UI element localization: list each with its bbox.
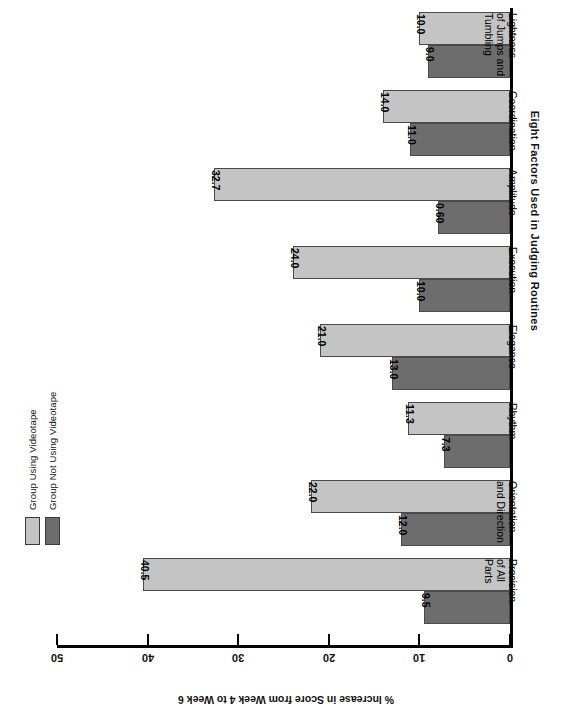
- legend-label-using-videotape: Group Using Videotape: [27, 409, 38, 510]
- bar-using-videotape: [214, 168, 510, 201]
- bar-value-label: 24.0: [289, 248, 301, 268]
- bar-value-label: 10.0: [415, 281, 427, 301]
- value-axis-tick-label: 10: [404, 652, 434, 664]
- bar-value-label: 9.0: [424, 47, 436, 62]
- legend-label-not-using-videotape: Group Not Using Videotape: [47, 391, 58, 510]
- bar-value-label: 10.0: [415, 14, 427, 34]
- bar-value-label: 7.3: [440, 437, 452, 452]
- value-axis-line: [57, 645, 513, 648]
- value-axis-tick-label: 50: [42, 652, 72, 664]
- category-axis-title: Eight Factors Used in Judging Routines: [529, 71, 541, 371]
- bar-not-using-videotape: [410, 123, 510, 156]
- bar-using-videotape: [383, 90, 510, 123]
- figure-caption: Figure 7.2-4 Results of the experiment b…: [0, 58, 102, 258]
- value-axis-tick: [237, 634, 239, 645]
- bar-value-label: 22.0: [307, 482, 319, 502]
- bar-value-label: 32.7: [210, 170, 222, 190]
- legend-swatch-not-using-videotape: [45, 517, 60, 545]
- bar-using-videotape: [293, 246, 510, 279]
- value-axis-tick: [147, 634, 149, 645]
- bar-value-label: 21.0: [316, 326, 328, 346]
- bar-using-videotape: [408, 402, 510, 435]
- figure-root: Figure 7.2-4 Results of the experiment b…: [0, 0, 573, 720]
- value-axis-tick-label: 40: [133, 652, 163, 664]
- legend-item: Group Using Videotape: [25, 355, 40, 545]
- legend: Group Using Videotape Group Not Using Vi…: [25, 355, 85, 545]
- bar-not-using-videotape: [401, 513, 510, 546]
- bar-using-videotape: [320, 324, 510, 357]
- bar-using-videotape: [311, 480, 510, 513]
- value-axis-tick-label: 20: [314, 652, 344, 664]
- bar-not-using-videotape: [392, 357, 510, 390]
- value-axis-tick: [328, 634, 330, 645]
- bar-value-label: 11.0: [406, 125, 418, 145]
- bar-value-label: 40.5: [139, 560, 151, 580]
- bar-not-using-videotape: [444, 435, 510, 468]
- bar-value-label: 0.60: [434, 203, 446, 223]
- bar-value-label: 9.5: [420, 593, 432, 608]
- legend-swatch-using-videotape: [25, 517, 40, 545]
- bar-value-label: 11.3: [404, 404, 416, 424]
- bar-value-label: 14.0: [379, 92, 391, 112]
- value-axis-title: % Increase in Score from Week 4 to Week …: [86, 694, 486, 706]
- bar-value-label: 12.0: [397, 515, 409, 535]
- value-axis-tick: [56, 634, 58, 645]
- category-label: Precision of All Parts: [483, 559, 519, 679]
- bar-value-label: 13.0: [388, 359, 400, 379]
- value-axis-tick-label: 30: [223, 652, 253, 664]
- value-axis-tick: [418, 634, 420, 645]
- legend-item: Group Not Using Videotape: [45, 355, 60, 545]
- bar-not-using-videotape: [438, 201, 510, 234]
- bar-not-using-videotape: [419, 279, 510, 312]
- bar-using-videotape: [143, 558, 510, 591]
